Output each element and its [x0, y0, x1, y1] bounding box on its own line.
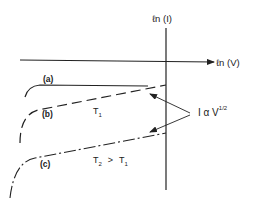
- curve-a-label: (a): [43, 74, 54, 84]
- x-axis: [20, 60, 214, 62]
- temperature-relation-label: T2>T1: [93, 155, 129, 167]
- curve-c: [10, 133, 166, 198]
- annotation-arrow-to-c: [150, 115, 190, 132]
- curve-c-label: (c): [40, 159, 51, 169]
- current-voltage-law-label: I α V1/2: [198, 105, 228, 118]
- temperature-t1-label: T1: [93, 106, 103, 118]
- x-axis-label: ℓn (V): [216, 57, 240, 68]
- annotation-arrow-to-b: [150, 94, 190, 113]
- curve-a: [25, 85, 148, 97]
- iv-loglog-diagram: ℓn (I) ℓn (V) (a) (b) T1 (c) T2>T1 I α V…: [0, 0, 260, 206]
- y-axis-label: ℓn (I): [152, 13, 172, 24]
- curve-b-label: (b): [42, 109, 53, 119]
